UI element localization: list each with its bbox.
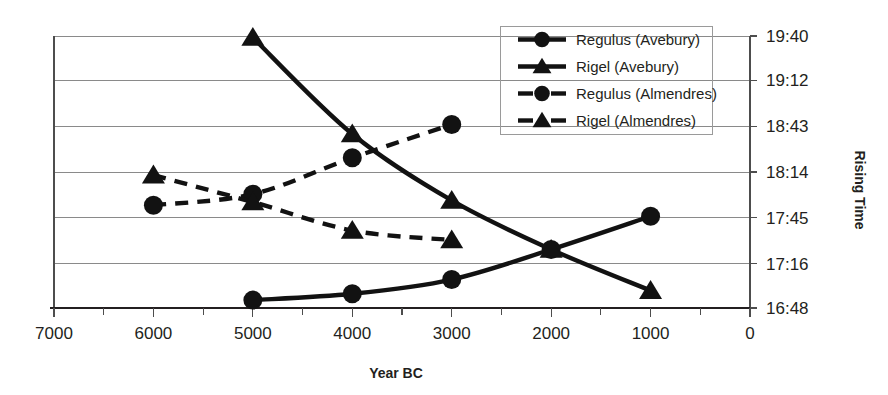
data-point-triangle: [533, 112, 552, 127]
series-line: [153, 175, 451, 240]
x-axis-title: Year BC: [369, 365, 423, 381]
y-tick-label: 18:43: [766, 117, 809, 136]
legend-item[interactable]: Rigel (Almendres): [518, 112, 696, 129]
data-point-circle: [534, 32, 550, 48]
legend-item[interactable]: Regulus (Almendres): [518, 85, 717, 102]
data-point-circle: [442, 270, 461, 289]
legend-label: Rigel (Avebury): [576, 58, 679, 75]
data-point-circle: [243, 291, 262, 310]
data-point-triangle: [440, 190, 463, 209]
y-tick-label: 19:40: [766, 27, 809, 46]
x-tick-label: 3000: [433, 324, 471, 343]
data-point-circle: [343, 284, 362, 303]
series-line: [253, 38, 651, 291]
series-line: [153, 125, 451, 206]
series-3: [144, 115, 461, 215]
legend-label: Regulus (Avebury): [576, 31, 700, 48]
data-point-circle: [343, 148, 362, 167]
y-tick-label: 18:14: [766, 163, 809, 182]
series-1: [243, 207, 660, 310]
x-tick-label: 0: [745, 324, 754, 343]
x-tick-label: 5000: [234, 324, 272, 343]
y-tick-label: 19:12: [766, 71, 809, 90]
legend-label: Regulus (Almendres): [576, 85, 717, 102]
chart-canvas: 19:4019:1218:4318:1417:4517:1616:48 7000…: [0, 0, 888, 395]
y-tick-label: 16:48: [766, 299, 809, 318]
x-tick-label: 6000: [135, 324, 173, 343]
y-axis-title: Rising Time: [852, 150, 868, 229]
data-point-circle: [641, 207, 660, 226]
x-tick-label: 1000: [632, 324, 670, 343]
x-tick-label: 2000: [532, 324, 570, 343]
data-point-circle: [144, 196, 163, 215]
rising-time-chart: 19:4019:1218:4318:1417:4517:1616:48 7000…: [0, 0, 888, 395]
y-tick-label: 17:16: [766, 255, 809, 274]
x-tick-label: 7000: [35, 324, 73, 343]
data-point-circle: [534, 86, 550, 102]
data-point-circle: [442, 115, 461, 134]
y-tick-labels-group: 19:4019:1218:4318:1417:4517:1616:48: [766, 27, 809, 318]
data-point-triangle: [142, 165, 165, 184]
x-tick-label: 4000: [333, 324, 371, 343]
y-tick-label: 17:45: [766, 209, 809, 228]
legend-item[interactable]: Regulus (Avebury): [518, 31, 700, 48]
legend-item[interactable]: Rigel (Avebury): [518, 58, 679, 75]
x-tick-labels-group: 70006000500040003000200010000: [35, 324, 755, 343]
legend-label: Rigel (Almendres): [576, 112, 696, 129]
